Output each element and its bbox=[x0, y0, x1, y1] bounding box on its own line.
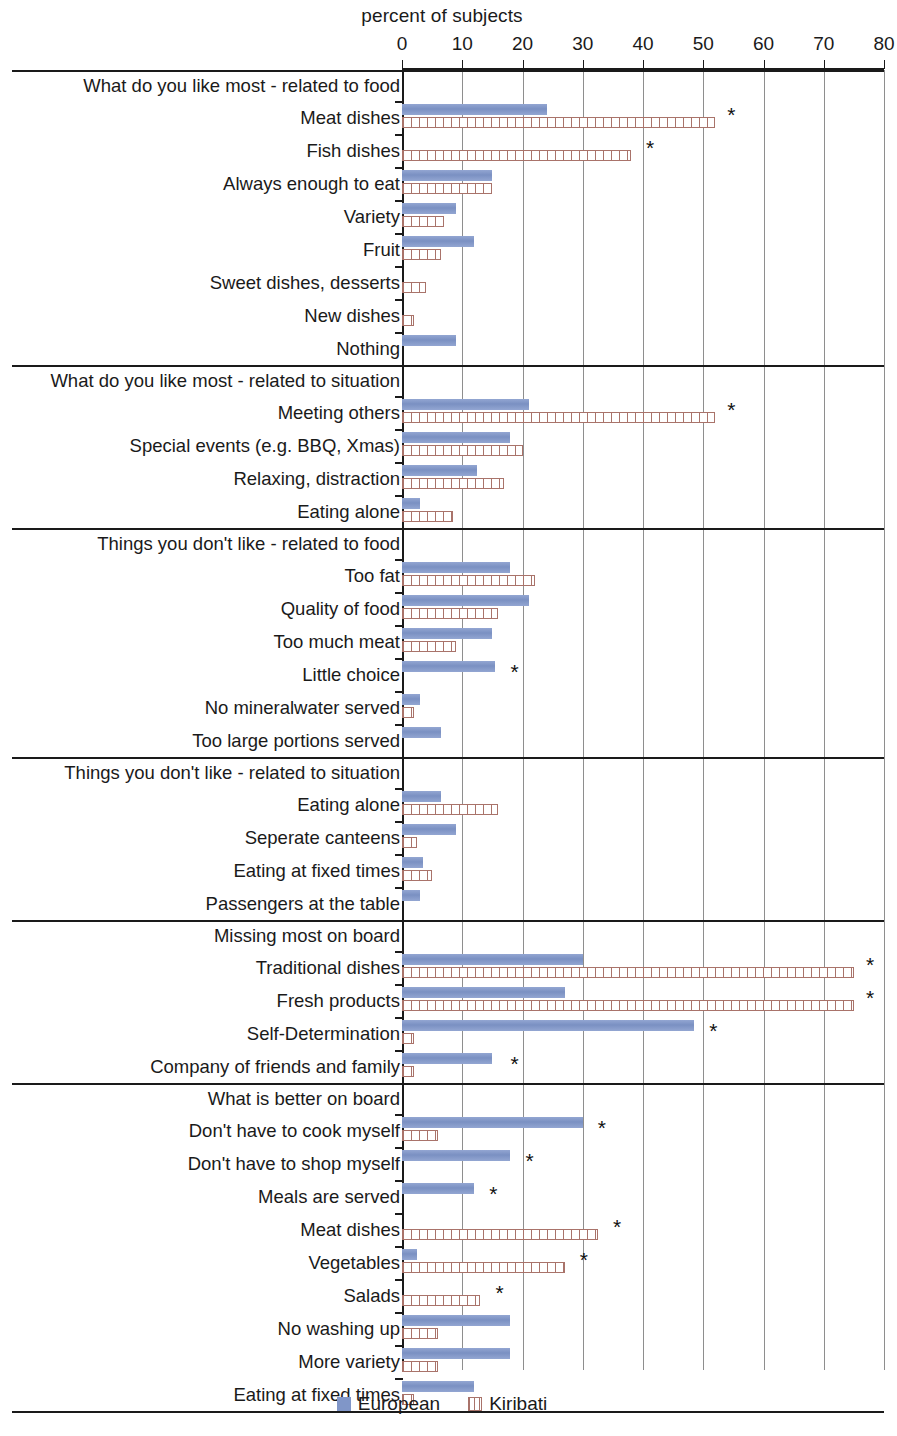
row-bars: * bbox=[402, 1017, 897, 1050]
row-bars: * bbox=[402, 1279, 897, 1312]
category-label: Don't have to cook myself bbox=[189, 1121, 400, 1140]
significance-star: * bbox=[613, 1221, 621, 1233]
bar-european bbox=[402, 170, 492, 181]
bar-kiribati bbox=[402, 707, 414, 718]
bar-kiribati bbox=[402, 1229, 598, 1240]
bar-european bbox=[402, 890, 420, 901]
row-bars bbox=[402, 429, 897, 462]
bar-european bbox=[402, 727, 441, 738]
section-header-label: Missing most on board bbox=[214, 926, 400, 945]
chart-row: Traditional dishes* bbox=[0, 951, 897, 984]
row-bars: * bbox=[402, 1246, 897, 1279]
x-tick-label: 20 bbox=[512, 33, 533, 55]
category-label: Meat dishes bbox=[300, 108, 400, 127]
chart-row: More variety bbox=[0, 1345, 897, 1378]
significance-star: * bbox=[510, 666, 518, 678]
section-header-row: What is better on board bbox=[0, 1083, 897, 1114]
x-tick-mark bbox=[884, 60, 885, 69]
bar-european bbox=[402, 1249, 417, 1260]
chart-row: Variety bbox=[0, 200, 897, 233]
chart-row: Meals are served* bbox=[0, 1180, 897, 1213]
row-bars bbox=[402, 167, 897, 200]
significance-star: * bbox=[727, 109, 735, 121]
significance-star: * bbox=[598, 1122, 606, 1134]
chart-row: Meeting others* bbox=[0, 396, 897, 429]
category-label: More variety bbox=[298, 1352, 400, 1371]
category-label: Meeting others bbox=[278, 403, 400, 422]
bar-european bbox=[402, 595, 529, 606]
category-label: Eating alone bbox=[297, 502, 400, 521]
x-tick-label: 60 bbox=[753, 33, 774, 55]
bar-european bbox=[402, 465, 477, 476]
bar-kiribati bbox=[402, 1033, 414, 1044]
category-label: Always enough to eat bbox=[223, 174, 400, 193]
chart-row: Little choice* bbox=[0, 658, 897, 691]
significance-star: * bbox=[646, 142, 654, 154]
row-bars: * bbox=[402, 134, 897, 167]
bar-european bbox=[402, 1183, 474, 1194]
bar-kiribati bbox=[402, 511, 453, 522]
row-bars bbox=[402, 332, 897, 365]
significance-star: * bbox=[866, 959, 874, 971]
row-bars bbox=[402, 299, 897, 332]
bar-kiribati bbox=[402, 641, 456, 652]
category-label: New dishes bbox=[304, 306, 400, 325]
category-label: Vegetables bbox=[308, 1253, 400, 1272]
bar-kiribati bbox=[402, 1361, 438, 1372]
legend-swatch-kiribati bbox=[468, 1397, 482, 1411]
bar-kiribati bbox=[402, 1328, 438, 1339]
bar-kiribati bbox=[402, 249, 441, 260]
category-label: Variety bbox=[344, 207, 400, 226]
chart-row: New dishes bbox=[0, 299, 897, 332]
chart-axis-title: percent of subjects bbox=[0, 5, 884, 27]
bar-european bbox=[402, 203, 456, 214]
bar-kiribati bbox=[402, 608, 498, 619]
section-header-row: What do you like most - related to food bbox=[0, 70, 897, 101]
significance-star: * bbox=[580, 1254, 588, 1266]
section-header-row: Things you don't like - related to food bbox=[0, 528, 897, 559]
significance-star: * bbox=[526, 1155, 534, 1167]
section-header-row: Missing most on board bbox=[0, 920, 897, 951]
chart-section: What is better on boardDon't have to coo… bbox=[0, 1083, 897, 1411]
bar-european bbox=[402, 694, 420, 705]
row-bars bbox=[402, 462, 897, 495]
bar-european bbox=[402, 987, 565, 998]
chart-row: Special events (e.g. BBQ, Xmas) bbox=[0, 429, 897, 462]
legend-item: European bbox=[337, 1392, 440, 1415]
category-label: Traditional dishes bbox=[256, 958, 400, 977]
bar-kiribati bbox=[402, 315, 414, 326]
category-label: Seperate canteens bbox=[245, 828, 400, 847]
bar-european bbox=[402, 661, 495, 672]
bar-kiribati bbox=[402, 1066, 414, 1077]
bar-european bbox=[402, 628, 492, 639]
chart-row: Too large portions served bbox=[0, 724, 897, 757]
bar-kiribati bbox=[402, 967, 854, 978]
row-bars bbox=[402, 592, 897, 625]
row-bars bbox=[402, 559, 897, 592]
bar-kiribati bbox=[402, 1262, 565, 1273]
x-tick-label: 40 bbox=[632, 33, 653, 55]
chart-row: Don't have to shop myself* bbox=[0, 1147, 897, 1180]
chart-section: Things you don't like - related to foodT… bbox=[0, 528, 897, 757]
row-bars: * bbox=[402, 1180, 897, 1213]
row-bars bbox=[402, 1312, 897, 1345]
bar-european bbox=[402, 824, 456, 835]
category-label: Nothing bbox=[336, 339, 400, 358]
row-bars: * bbox=[402, 396, 897, 429]
section-header-row: Things you don't like - related to situa… bbox=[0, 757, 897, 788]
row-bars bbox=[402, 854, 897, 887]
row-bars bbox=[402, 691, 897, 724]
row-bars bbox=[402, 821, 897, 854]
chart-row: Eating alone bbox=[0, 788, 897, 821]
category-label: Fresh products bbox=[277, 991, 400, 1010]
bar-kiribati bbox=[402, 282, 426, 293]
category-label: Little choice bbox=[302, 665, 400, 684]
section-header-label: What do you like most - related to food bbox=[83, 76, 400, 95]
chart-row: Eating at fixed times bbox=[0, 854, 897, 887]
x-tick-label: 80 bbox=[873, 33, 894, 55]
chart-row: Meat dishes* bbox=[0, 101, 897, 134]
x-axis-tick-labels: 01020304050607080 bbox=[0, 33, 897, 57]
chart-row: Relaxing, distraction bbox=[0, 462, 897, 495]
category-label: Meat dishes bbox=[300, 1220, 400, 1239]
legend-item: Kiribati bbox=[468, 1392, 547, 1415]
